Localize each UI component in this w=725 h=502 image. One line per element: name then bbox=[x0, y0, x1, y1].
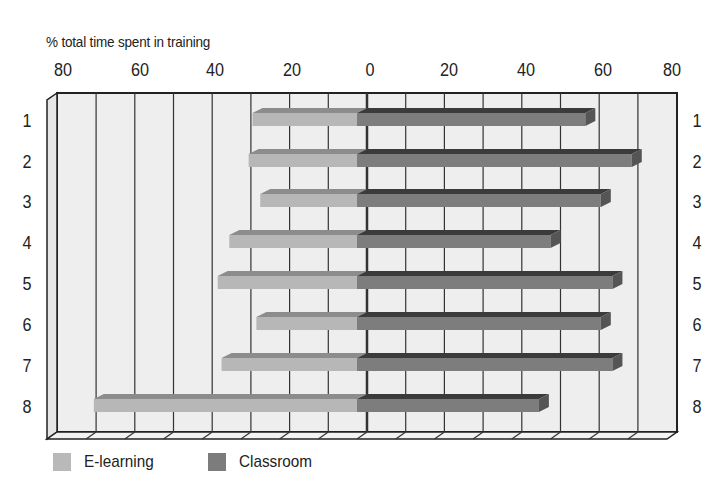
bar-classroom bbox=[357, 317, 601, 330]
bar-elearning-top bbox=[260, 189, 367, 194]
bar-elearning bbox=[229, 235, 357, 248]
bar-elearning-top bbox=[229, 230, 367, 235]
bar-classroom-top bbox=[357, 394, 549, 399]
bar-classroom bbox=[357, 235, 551, 248]
bar-classroom-top bbox=[357, 108, 595, 113]
bar-elearning-top bbox=[256, 312, 367, 317]
bar-classroom bbox=[357, 113, 585, 126]
bar-classroom bbox=[357, 154, 632, 167]
bar-elearning-top bbox=[222, 353, 367, 358]
legend-swatch-elearning bbox=[53, 453, 71, 471]
bar-elearning bbox=[260, 194, 357, 207]
bar-classroom bbox=[357, 399, 539, 412]
bar-elearning bbox=[94, 399, 357, 412]
plot-left-wall bbox=[47, 93, 57, 439]
legend-swatch-classroom bbox=[208, 453, 226, 471]
bar-classroom-top bbox=[357, 189, 611, 194]
bar-classroom bbox=[357, 276, 612, 289]
bar-elearning bbox=[256, 317, 357, 330]
legend-label-classroom: Classroom bbox=[239, 452, 312, 472]
legend-label-elearning: E-learning bbox=[84, 452, 154, 472]
bar-elearning-top bbox=[253, 108, 367, 113]
bar-classroom bbox=[357, 194, 601, 207]
legend-item-classroom: Classroom bbox=[208, 452, 320, 472]
bar-elearning-top bbox=[94, 394, 367, 399]
bar-elearning-top bbox=[249, 149, 367, 154]
bar-classroom-top bbox=[357, 230, 561, 235]
bar-classroom-top bbox=[357, 353, 622, 358]
bar-elearning bbox=[253, 113, 357, 126]
bar-classroom-top bbox=[357, 149, 642, 154]
bar-classroom-top bbox=[357, 271, 622, 276]
bar-elearning-top bbox=[218, 271, 367, 276]
bar-elearning bbox=[249, 154, 357, 167]
bar-chart-plot bbox=[0, 0, 725, 502]
bar-classroom-top bbox=[357, 312, 611, 317]
bar-elearning bbox=[218, 276, 357, 289]
bar-elearning bbox=[222, 358, 357, 371]
bar-classroom bbox=[357, 358, 612, 371]
legend-item-elearning: E-learning bbox=[53, 452, 162, 472]
